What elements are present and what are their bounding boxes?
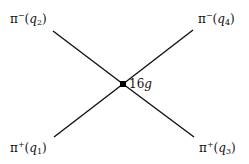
vertex-coefficient: 16 [129, 77, 144, 91]
label-top-left: π−(q2) [10, 12, 47, 27]
vertex-dot [120, 81, 126, 87]
momentum: q [217, 12, 225, 26]
leg-line-top-left [53, 31, 123, 84]
leg-line-bottom-left [54, 84, 123, 137]
charge: + [207, 140, 214, 149]
momentum-index: 1 [37, 147, 42, 156]
vertex-coupling: g [144, 77, 152, 91]
momentum-index: 4 [225, 18, 230, 27]
momentum-index: 3 [226, 147, 231, 156]
label-bottom-left: π+(q1) [10, 141, 47, 156]
particle-symbol: π [10, 12, 18, 26]
vertex-label: 16g [129, 78, 152, 90]
momentum: q [29, 12, 37, 26]
particle-symbol: π [10, 141, 18, 155]
label-bottom-right: π+(q3) [199, 141, 236, 156]
leg-line-top-right [123, 30, 193, 84]
label-top-right: π−(q4) [198, 12, 235, 27]
particle-symbol: π [199, 141, 207, 155]
momentum: q [218, 141, 226, 155]
momentum-index: 2 [37, 18, 42, 27]
particle-symbol: π [198, 12, 206, 26]
charge: − [18, 11, 25, 20]
charge: − [206, 11, 213, 20]
leg-line-bottom-right [123, 84, 194, 137]
charge: + [18, 140, 25, 149]
momentum: q [29, 141, 37, 155]
